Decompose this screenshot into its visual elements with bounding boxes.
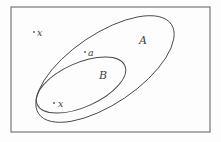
point-a-inside-a-label: a [88, 47, 94, 58]
set-a-label: A [138, 34, 147, 47]
point-x-inside-b-dot [53, 102, 55, 104]
set-diagram-figure: A B x a x [0, 0, 221, 142]
point-x-inside-b-label: x [58, 98, 64, 109]
set-b-label: B [98, 69, 107, 82]
point-x-outside-dot [33, 31, 35, 33]
point-a-inside-a-dot [84, 51, 86, 53]
venn-diagram-canvas: A B x a x [0, 0, 221, 142]
point-x-outside-label: x [37, 27, 43, 38]
